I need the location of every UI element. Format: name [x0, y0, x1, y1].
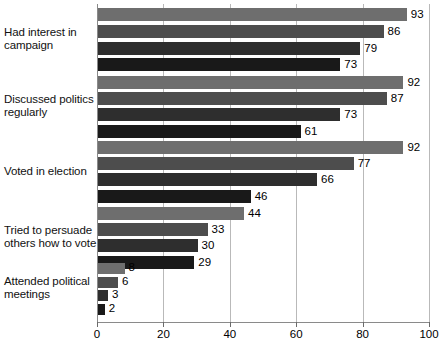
gridline-100 — [429, 4, 430, 322]
category-label: Discussed politicsregularly — [4, 93, 100, 118]
bar — [98, 290, 108, 301]
bar — [98, 277, 118, 288]
category-axis-line — [97, 322, 429, 323]
bar — [98, 173, 317, 186]
bar — [98, 76, 403, 89]
bar-value-label: 6 — [122, 276, 128, 287]
bar — [98, 304, 105, 315]
bar-value-label: 92 — [407, 76, 420, 89]
x-axis-tick-label: 20 — [157, 328, 170, 340]
category-label: Attended politicalmeetings — [4, 275, 100, 300]
tick-mark-0 — [97, 322, 98, 327]
bar-value-label: 30 — [202, 239, 215, 252]
bar-value-label: 8 — [129, 262, 135, 273]
category-label-line: Tried to persuade — [4, 224, 100, 237]
bar — [98, 263, 125, 274]
bar — [98, 141, 403, 154]
bar-value-label: 77 — [358, 157, 371, 170]
category-axis-labels: Had interest incampaignDiscussed politic… — [0, 0, 97, 322]
tick-mark-20 — [163, 322, 164, 327]
tick-mark-40 — [230, 322, 231, 327]
bar — [98, 108, 340, 121]
bar-value-label: 29 — [198, 256, 211, 269]
category-label-line: Voted in election — [4, 165, 100, 178]
category-label-line: meetings — [4, 288, 100, 301]
category-label-line: Had interest in — [4, 26, 100, 39]
category-label: Had interest incampaign — [4, 26, 100, 51]
bar-value-label: 93 — [411, 8, 424, 21]
bar — [98, 125, 301, 138]
bar — [98, 92, 387, 105]
bar — [98, 25, 384, 38]
plot-area: 0204060801009386797392877361927766464433… — [97, 0, 441, 322]
bar-value-label: 46 — [255, 190, 268, 203]
category-label-line: Attended political — [4, 275, 100, 288]
category-label-line: regularly — [4, 106, 100, 119]
category-label: Voted in election — [4, 165, 100, 178]
bar-value-label: 33 — [212, 223, 225, 236]
bar — [98, 190, 251, 203]
category-label: Tried to persuadeothers how to vote — [4, 224, 100, 249]
bar — [98, 8, 407, 21]
x-axis-tick-label: 40 — [223, 328, 236, 340]
bar-value-label: 86 — [388, 25, 401, 38]
bar-value-label: 44 — [248, 207, 261, 220]
bar — [98, 223, 208, 236]
bar-value-label: 92 — [407, 141, 420, 154]
bar-value-label: 73 — [344, 108, 357, 121]
bar-value-label: 2 — [109, 303, 115, 314]
bar-value-label: 87 — [391, 92, 404, 105]
bar-value-label: 3 — [112, 289, 118, 300]
tick-mark-60 — [296, 322, 297, 327]
bar — [98, 239, 198, 252]
bar — [98, 42, 360, 55]
bar — [98, 58, 340, 71]
x-axis-tick-label: 100 — [419, 328, 438, 340]
bar-value-label: 79 — [364, 42, 377, 55]
bar-value-label: 61 — [305, 125, 318, 138]
bar — [98, 157, 354, 170]
tick-mark-100 — [429, 322, 430, 327]
bar — [98, 207, 244, 220]
tick-mark-80 — [363, 322, 364, 327]
category-label-line: campaign — [4, 39, 100, 52]
bar-value-label: 73 — [344, 58, 357, 71]
bar-value-label: 66 — [321, 173, 334, 186]
bar-chart: Had interest incampaignDiscussed politic… — [0, 0, 441, 351]
category-label-line: others how to vote — [4, 237, 100, 250]
x-axis-tick-label: 60 — [290, 328, 303, 340]
category-label-line: Discussed politics — [4, 93, 100, 106]
x-axis-tick-label: 80 — [356, 328, 369, 340]
x-axis-tick-label: 0 — [94, 328, 100, 340]
